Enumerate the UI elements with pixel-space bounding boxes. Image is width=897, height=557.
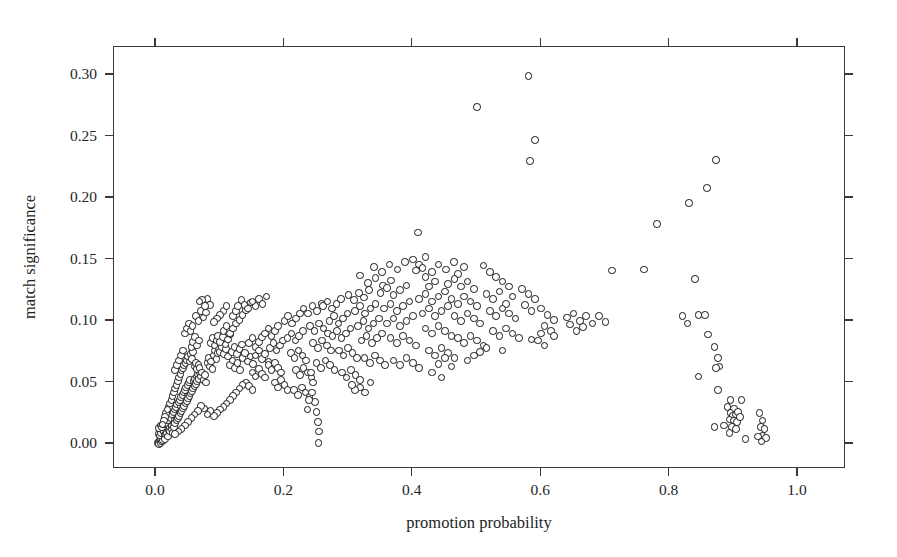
scatter-point xyxy=(288,330,296,338)
x-axis-tick-label: 0.0 xyxy=(145,482,164,498)
scatter-point xyxy=(441,288,449,296)
scatter-point xyxy=(223,302,231,310)
scatter-point xyxy=(317,364,325,372)
y-axis-tick xyxy=(845,442,853,443)
x-axis-tick-label: 0.2 xyxy=(274,482,293,498)
scatter-point xyxy=(261,374,269,382)
y-axis-tick-label: 0.10 xyxy=(70,312,97,328)
y-axis-tick xyxy=(845,135,853,136)
y-axis-tick-label: 0.25 xyxy=(70,128,97,144)
scatter-point xyxy=(570,310,578,318)
x-axis-tick-label: 0.4 xyxy=(402,482,421,498)
scatter-point xyxy=(509,293,517,301)
scatter-point xyxy=(314,418,322,426)
scatter-point xyxy=(736,413,744,421)
scatter-point xyxy=(403,282,411,290)
scatter-point xyxy=(758,438,766,446)
scatter-point xyxy=(356,302,364,310)
x-axis-tick xyxy=(668,468,669,476)
scatter-point xyxy=(195,337,203,345)
scatter-point xyxy=(531,136,539,144)
scatter-point xyxy=(714,386,722,394)
scatter-point xyxy=(361,389,369,397)
scatter-point xyxy=(602,318,610,326)
scatter-point xyxy=(291,354,299,362)
scatter-point xyxy=(438,374,446,382)
scatter-point xyxy=(444,302,452,310)
scatter-point xyxy=(704,331,712,339)
scatter-point xyxy=(566,321,574,329)
scatter-point xyxy=(249,386,257,394)
scatter-point xyxy=(383,320,391,328)
scatter-point xyxy=(378,330,386,338)
scatter-point xyxy=(360,294,368,302)
scatter-point xyxy=(460,263,468,271)
scatter-point xyxy=(396,286,404,294)
scatter-point xyxy=(394,266,402,274)
scatter-point xyxy=(550,316,558,324)
scatter-point xyxy=(470,352,478,360)
scatter-point xyxy=(464,278,472,286)
scatter-point xyxy=(348,381,356,389)
scatter-point xyxy=(541,342,549,350)
x-axis-tick xyxy=(796,468,797,476)
scatter-point xyxy=(308,389,316,397)
x-axis-tick xyxy=(154,38,155,46)
x-axis-tick xyxy=(154,468,155,476)
y-axis-tick xyxy=(105,73,113,74)
scatter-point xyxy=(309,379,317,387)
scatter-point xyxy=(387,277,395,285)
scatter-point xyxy=(296,371,304,379)
scatter-point xyxy=(684,320,692,328)
scatter-point xyxy=(313,408,321,416)
x-axis-tick-label: 0.6 xyxy=(531,482,550,498)
scatter-point xyxy=(372,300,380,308)
y-axis-title: match significance xyxy=(20,195,40,319)
scatter-point xyxy=(528,307,536,315)
scatter-point xyxy=(732,425,740,433)
scatter-point xyxy=(537,330,545,338)
scatter-point xyxy=(375,315,383,323)
x-axis-tick xyxy=(283,38,284,46)
y-axis-tick xyxy=(845,258,853,259)
scatter-point xyxy=(304,310,312,318)
scatter-point xyxy=(525,72,533,80)
scatter-point xyxy=(505,283,513,291)
scatter-point xyxy=(428,330,436,338)
scatter-point xyxy=(711,343,719,351)
scatter-point xyxy=(381,361,389,369)
scatter-point xyxy=(711,423,719,431)
scatter-point xyxy=(714,354,722,362)
scatter-point xyxy=(367,379,375,387)
x-axis-tick xyxy=(668,38,669,46)
scatter-point xyxy=(311,327,319,335)
plot-frame xyxy=(113,46,845,468)
scatter-point xyxy=(460,339,468,347)
scatter-point xyxy=(387,300,395,308)
scatter-point xyxy=(393,339,401,347)
scatter-point xyxy=(579,323,587,331)
y-axis-tick-label: 0.20 xyxy=(70,189,97,205)
y-axis-tick xyxy=(845,73,853,74)
x-axis-title: promotion probability xyxy=(406,513,551,533)
scatter-point xyxy=(431,352,439,360)
scatter-point xyxy=(422,253,430,261)
scatter-point xyxy=(431,278,439,286)
scatter-point xyxy=(573,327,581,335)
y-axis-tick xyxy=(105,196,113,197)
x-axis-tick xyxy=(283,468,284,476)
scatter-point xyxy=(428,268,436,276)
scatter-point xyxy=(370,263,378,271)
scatter-points-layer xyxy=(114,47,844,467)
scatter-point xyxy=(512,315,520,323)
scatter-point xyxy=(695,373,703,381)
scatter-point xyxy=(685,199,693,207)
scatter-point xyxy=(441,354,449,362)
scatter-point xyxy=(496,332,504,340)
scatter-point xyxy=(390,315,398,323)
scatter-point xyxy=(489,295,497,303)
scatter-point xyxy=(492,312,500,320)
y-axis-tick xyxy=(105,135,113,136)
scatter-point xyxy=(425,305,433,313)
scatter-point xyxy=(356,376,364,384)
